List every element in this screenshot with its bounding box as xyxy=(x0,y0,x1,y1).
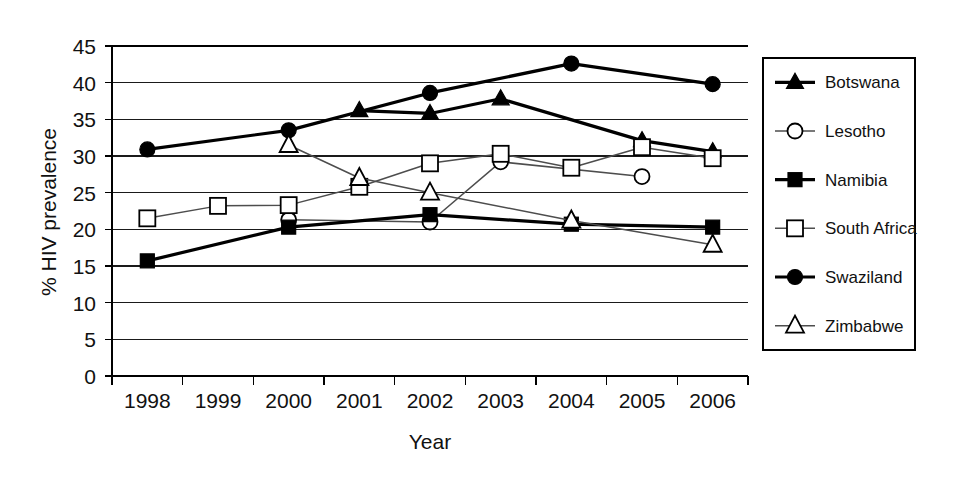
hiv-prevalence-line-chart: 051015202530354045 199819992000200120022… xyxy=(0,0,968,477)
x-tick-label: 2002 xyxy=(407,389,454,412)
chart-figure: 051015202530354045 199819992000200120022… xyxy=(0,0,968,477)
data-point-marker xyxy=(705,77,720,92)
data-point-marker xyxy=(423,85,438,100)
legend-label: South Africa xyxy=(825,219,917,238)
x-tick-label: 2003 xyxy=(477,389,524,412)
data-point-marker xyxy=(140,254,154,268)
data-point-marker xyxy=(493,146,509,162)
legend-swatch-marker xyxy=(787,220,803,236)
y-axis-title: % HIV prevalence xyxy=(37,128,60,296)
x-tick-label: 1999 xyxy=(195,389,242,412)
legend-swatch-marker xyxy=(788,173,802,187)
legend-label: Lesotho xyxy=(825,122,886,141)
data-point-marker xyxy=(281,197,297,213)
y-tick-label: 0 xyxy=(84,365,96,388)
x-axis-title: Year xyxy=(409,430,451,453)
x-tick-label: 2005 xyxy=(619,389,666,412)
data-point-marker xyxy=(282,220,296,234)
x-axis-tick-labels: 199819992000200120022003200420052006 xyxy=(124,389,736,412)
x-tick-label: 2001 xyxy=(336,389,383,412)
data-point-marker xyxy=(634,139,650,155)
legend-item-lesotho[interactable]: Lesotho xyxy=(775,122,886,141)
y-tick-label: 5 xyxy=(84,328,96,351)
y-tick-label: 40 xyxy=(73,72,96,95)
x-tick-label: 2004 xyxy=(548,389,595,412)
data-point-marker xyxy=(635,169,650,184)
legend-item-zimbabwe[interactable]: Zimbabwe xyxy=(775,316,903,336)
legend-label: Botswana xyxy=(825,73,900,92)
y-tick-label: 45 xyxy=(73,35,96,58)
y-tick-label: 25 xyxy=(73,182,96,205)
data-point-marker xyxy=(706,220,720,234)
legend-label: Swaziland xyxy=(825,268,903,287)
data-point-marker xyxy=(140,142,155,157)
data-point-marker xyxy=(422,155,438,171)
data-point-marker xyxy=(564,56,579,71)
legend-swatch-marker xyxy=(788,124,803,139)
legend-item-namibia[interactable]: Namibia xyxy=(775,171,888,190)
y-tick-label: 35 xyxy=(73,108,96,131)
legend-item-south-africa[interactable]: South Africa xyxy=(775,219,917,238)
legend-label: Zimbabwe xyxy=(825,317,903,336)
x-tick-label: 2006 xyxy=(689,389,736,412)
data-point-marker xyxy=(563,160,579,176)
y-tick-label: 30 xyxy=(73,145,96,168)
x-tick-label: 1998 xyxy=(124,389,171,412)
data-point-marker xyxy=(139,210,155,226)
y-tick-label: 15 xyxy=(73,255,96,278)
data-point-marker xyxy=(705,150,721,166)
y-tick-label: 20 xyxy=(73,218,96,241)
x-tick-label: 2000 xyxy=(265,389,312,412)
data-point-marker xyxy=(423,208,437,222)
legend-swatch-marker xyxy=(788,270,803,285)
data-point-marker xyxy=(210,198,226,214)
y-tick-label: 10 xyxy=(73,292,96,315)
legend-item-swaziland[interactable]: Swaziland xyxy=(775,268,903,287)
legend-label: Namibia xyxy=(825,171,888,190)
